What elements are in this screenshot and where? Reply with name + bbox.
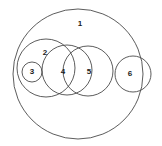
set-circle-6[interactable]	[115, 56, 151, 92]
set-label-2: 2	[43, 49, 47, 57]
set-label-1: 1	[78, 20, 82, 28]
set-label-4: 4	[61, 68, 65, 76]
set-label-5: 5	[87, 68, 91, 76]
set-label-3: 3	[30, 68, 34, 76]
venn-diagram: 1 2 3 4 5 6	[0, 0, 162, 146]
set-label-6: 6	[128, 70, 132, 78]
